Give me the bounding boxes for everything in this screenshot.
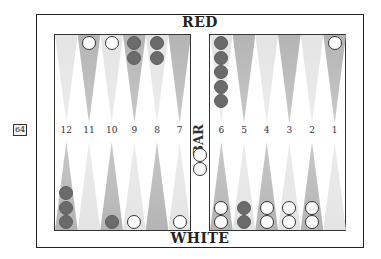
white-checker[interactable] — [260, 215, 274, 229]
point-number: 3 — [278, 125, 301, 135]
top-player-label: RED — [37, 14, 363, 30]
white-checker[interactable] — [214, 201, 228, 215]
red-checker[interactable] — [150, 36, 164, 50]
point-number: 6 — [210, 125, 233, 135]
white-bar-checker[interactable] — [193, 148, 207, 162]
point-number: 11 — [78, 125, 101, 135]
white-checker[interactable] — [305, 215, 319, 229]
point-number: 8 — [146, 125, 169, 135]
red-checker[interactable] — [237, 215, 251, 229]
red-checker[interactable] — [105, 215, 119, 229]
point-number: 12 — [55, 125, 78, 135]
point-number: 4 — [255, 125, 278, 135]
white-checker[interactable] — [282, 201, 296, 215]
red-checker[interactable] — [150, 51, 164, 65]
point-number: 9 — [123, 125, 146, 135]
red-checker[interactable] — [59, 201, 73, 215]
red-checker[interactable] — [237, 201, 251, 215]
point-number: 1 — [323, 125, 346, 135]
red-checker[interactable] — [214, 80, 228, 94]
white-checker[interactable] — [305, 201, 319, 215]
red-checker[interactable] — [127, 51, 141, 65]
point-number: 2 — [301, 125, 324, 135]
point-number: 7 — [168, 125, 191, 135]
point-number: 5 — [233, 125, 256, 135]
point-number: 10 — [100, 125, 123, 135]
white-checker[interactable] — [173, 215, 187, 229]
bottom-player-label: WHITE — [37, 230, 363, 246]
white-checker[interactable] — [328, 36, 342, 50]
white-checker[interactable] — [105, 36, 119, 50]
white-checker[interactable] — [260, 201, 274, 215]
doubling-cube[interactable]: 64 — [13, 124, 27, 136]
red-checker[interactable] — [214, 51, 228, 65]
white-bar-checker[interactable] — [193, 162, 207, 176]
white-checker[interactable] — [82, 36, 96, 50]
